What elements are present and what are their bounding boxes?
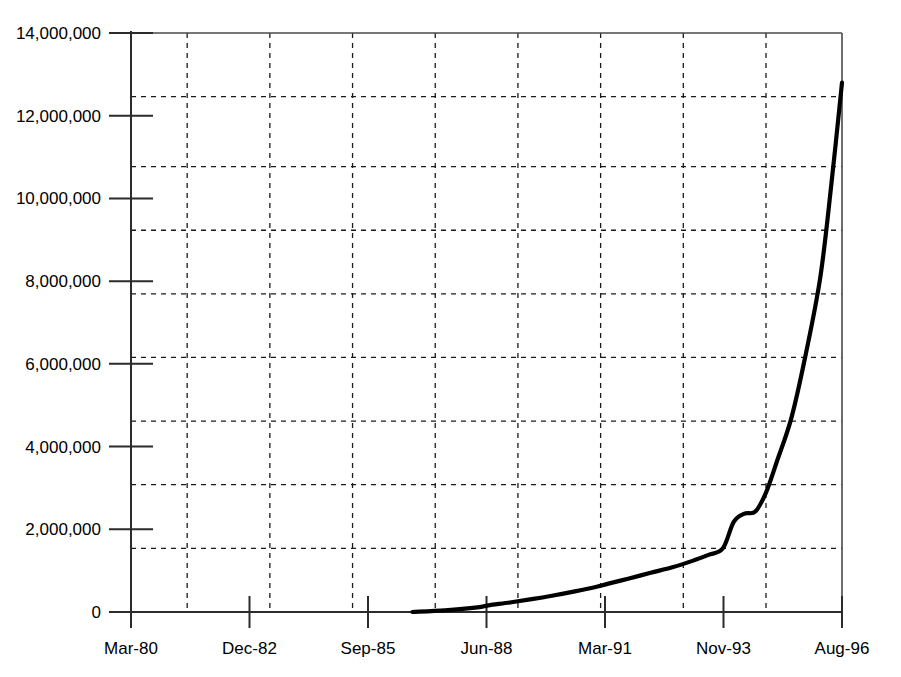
y-tick-label: 12,000,000: [16, 107, 101, 126]
data-series-group: [413, 83, 842, 612]
chart-container: 02,000,0004,000,0006,000,0008,000,00010,…: [0, 0, 901, 677]
y-tick-label: 2,000,000: [25, 520, 101, 539]
data-series-line: [413, 83, 842, 612]
y-tick-label: 0: [92, 603, 101, 622]
x-tick-label: Mar-80: [104, 639, 158, 658]
x-tick-label: Mar-91: [578, 639, 632, 658]
line-chart: 02,000,0004,000,0006,000,0008,000,00010,…: [0, 0, 901, 677]
y-axis-tick-labels: 02,000,0004,000,0006,000,0008,000,00010,…: [16, 24, 101, 622]
y-tick-label: 4,000,000: [25, 438, 101, 457]
y-tick-label: 8,000,000: [25, 272, 101, 291]
x-axis-tick-labels: Mar-80Dec-82Sep-85Jun-88Mar-91Nov-93Aug-…: [104, 639, 869, 658]
y-tick-label: 14,000,000: [16, 24, 101, 43]
y-tick-label: 6,000,000: [25, 355, 101, 374]
x-tick-label: Aug-96: [815, 639, 870, 658]
vertical-gridlines: [187, 33, 766, 612]
y-tick-label: 10,000,000: [16, 189, 101, 208]
x-tick-label: Sep-85: [341, 639, 396, 658]
horizontal-gridlines: [131, 97, 842, 549]
x-tick-label: Dec-82: [222, 639, 277, 658]
x-tick-label: Nov-93: [696, 639, 751, 658]
x-tick-label: Jun-88: [461, 639, 513, 658]
